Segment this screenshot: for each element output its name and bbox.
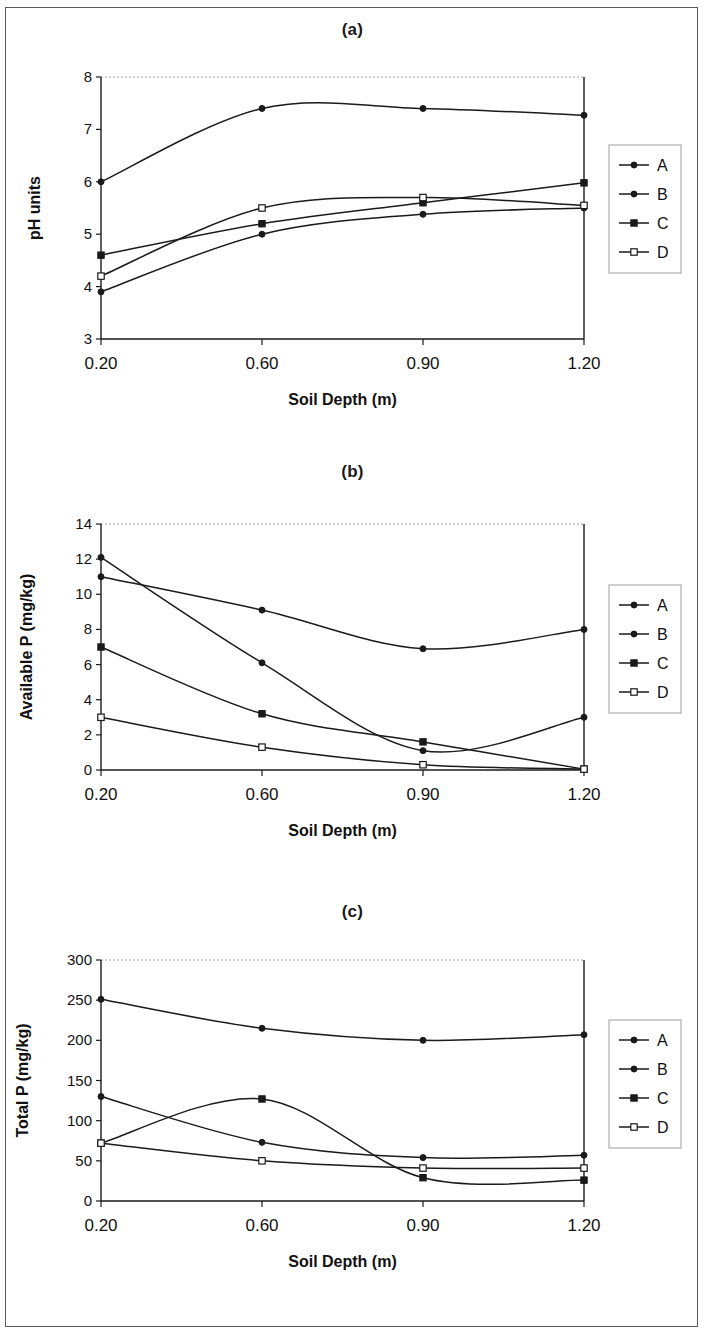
legend-label-B[interactable]: B [657, 186, 668, 203]
x-tick-label: 0.20 [84, 354, 117, 373]
y-tick-label: 4 [84, 278, 92, 295]
x-axis-title: Soil Depth (m) [288, 391, 396, 408]
data-point-B [259, 1139, 265, 1145]
legend-marker-C [631, 660, 637, 666]
legend-marker-B [631, 191, 637, 197]
panel-c-svg: 0501001502002503000.200.600.901.20Soil D… [6, 890, 699, 1328]
data-point-A [259, 105, 265, 111]
data-point-B [98, 1094, 104, 1100]
data-point-A [98, 574, 104, 580]
legend-label-C[interactable]: C [657, 215, 669, 232]
series-line-B [101, 1097, 584, 1159]
y-tick-label: 10 [75, 585, 92, 602]
legend-label-D[interactable]: D [657, 684, 669, 701]
chart-panel-b: (b) 024681012140.200.600.901.20Soil Dept… [6, 450, 699, 890]
y-tick-label: 2 [84, 726, 92, 743]
legend-label-D[interactable]: D [657, 1119, 669, 1136]
data-point-C [259, 711, 265, 717]
data-point-A [420, 105, 426, 111]
y-tick-label: 0 [84, 761, 92, 778]
data-point-C [259, 221, 265, 227]
data-point-B [420, 1155, 426, 1161]
y-axis-title: Total P (mg/kg) [14, 1023, 31, 1137]
y-axis-title: Available P (mg/kg) [18, 574, 35, 721]
x-tick-label: 0.60 [245, 1216, 278, 1235]
data-point-D [420, 762, 426, 768]
legend-label-B[interactable]: B [657, 626, 668, 643]
x-tick-label: 1.20 [567, 354, 600, 373]
y-tick-label: 7 [84, 120, 92, 137]
y-tick-label: 0 [84, 1192, 92, 1209]
y-axis-title: pH units [26, 176, 43, 240]
data-point-C [420, 739, 426, 745]
legend-box [609, 585, 681, 713]
x-tick-label: 0.90 [406, 1216, 439, 1235]
legend-box [609, 1020, 681, 1148]
legend-label-C[interactable]: C [657, 655, 669, 672]
y-tick-label: 5 [84, 225, 92, 242]
series-line-C [101, 647, 584, 769]
data-point-C [581, 180, 587, 186]
data-point-D [581, 202, 587, 208]
y-tick-label: 100 [67, 1112, 92, 1129]
data-point-A [581, 626, 587, 632]
x-tick-label: 0.20 [84, 1216, 117, 1235]
data-point-B [420, 211, 426, 217]
data-point-A [581, 1032, 587, 1038]
y-tick-label: 200 [67, 1031, 92, 1048]
data-point-B [259, 231, 265, 237]
y-tick-label: 12 [75, 550, 92, 567]
data-point-A [98, 996, 104, 1002]
y-tick-label: 6 [84, 173, 92, 190]
legend-marker-C [631, 220, 637, 226]
data-point-B [581, 1152, 587, 1158]
y-tick-label: 14 [75, 515, 92, 532]
panel-b-plot-area: 024681012140.200.600.901.20Soil Depth (m… [6, 450, 699, 890]
data-point-D [259, 744, 265, 750]
data-point-D [420, 1165, 426, 1171]
series-line-C [101, 183, 584, 255]
data-point-C [420, 1175, 426, 1181]
legend-marker-B [631, 1066, 637, 1072]
legend-marker-C [631, 1095, 637, 1101]
data-point-A [420, 646, 426, 652]
data-point-D [98, 273, 104, 279]
series-line-B [101, 557, 584, 752]
x-tick-label: 0.20 [84, 785, 117, 804]
y-tick-label: 150 [67, 1072, 92, 1089]
data-point-B [420, 748, 426, 754]
y-tick-label: 300 [67, 951, 92, 968]
legend-label-B[interactable]: B [657, 1061, 668, 1078]
legend-marker-D [631, 689, 637, 695]
data-point-D [98, 1140, 104, 1146]
legend-label-A[interactable]: A [657, 1032, 668, 1049]
data-point-D [581, 766, 587, 772]
data-point-A [98, 179, 104, 185]
legend-marker-A [631, 1037, 637, 1043]
legend-label-A[interactable]: A [657, 157, 668, 174]
legend-box [609, 145, 681, 273]
y-tick-label: 250 [67, 991, 92, 1008]
data-point-D [259, 205, 265, 211]
panel-b-svg: 024681012140.200.600.901.20Soil Depth (m… [6, 450, 699, 890]
legend-label-D[interactable]: D [657, 244, 669, 261]
data-point-A [420, 1037, 426, 1043]
legend-marker-D [631, 1124, 637, 1130]
data-point-D [259, 1158, 265, 1164]
series-line-A [101, 999, 584, 1040]
legend-label-C[interactable]: C [657, 1090, 669, 1107]
x-tick-label: 0.90 [406, 354, 439, 373]
data-point-B [259, 660, 265, 666]
legend-label-A[interactable]: A [657, 597, 668, 614]
series-line-A [101, 577, 584, 649]
x-axis-title: Soil Depth (m) [288, 1253, 396, 1270]
x-tick-label: 0.60 [245, 785, 278, 804]
y-tick-label: 3 [84, 330, 92, 347]
series-line-D [101, 717, 584, 769]
series-line-D [101, 1143, 584, 1168]
chart-panel-a: (a) 3456780.200.600.901.20Soil Depth (m)… [6, 8, 699, 450]
figure-frame: (a) 3456780.200.600.901.20Soil Depth (m)… [5, 7, 698, 1327]
series-line-B [101, 208, 584, 292]
data-point-A [259, 607, 265, 613]
legend-marker-D [631, 249, 637, 255]
